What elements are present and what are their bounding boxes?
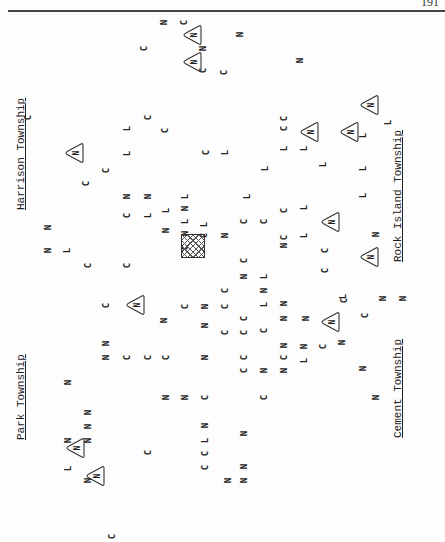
map-marker-l: L [181, 217, 190, 226]
triangle-icon: N [85, 465, 107, 487]
triangle-icon: N [320, 211, 342, 233]
map-marker-c: C [144, 448, 153, 457]
map-marker-c: C [321, 266, 330, 275]
triangle-icon: N [125, 294, 147, 316]
map-marker-l: L [243, 192, 252, 201]
map-marker-c: C [102, 166, 111, 175]
map-marker-n: N [240, 429, 249, 438]
map-marker-l: L [300, 144, 309, 153]
map-marker-c: C [240, 353, 249, 362]
map-marker-n: N [84, 422, 93, 431]
document-page: 191 Harrison Township Rock Island Townsh… [0, 0, 445, 542]
map-marker-n: N [280, 314, 289, 323]
map-marker-l: L [300, 231, 309, 240]
map-marker-l: L [221, 148, 230, 157]
map-marker-l: L [123, 124, 132, 133]
label-park-township: Park Township [15, 354, 27, 440]
map-marker-n: N [296, 56, 305, 65]
map-marker-n: N [280, 341, 289, 350]
map-marker-c: C [240, 314, 249, 323]
map-marker-c: C [201, 463, 210, 472]
map-marker-c: C [123, 211, 132, 220]
map-marker-n: N [359, 364, 368, 373]
map-marker-l: L [300, 356, 309, 365]
map-marker-n: N [44, 223, 53, 232]
map-marker-n: N [240, 272, 249, 281]
map-marker-n: N [102, 353, 111, 362]
map-marker-n: N [260, 366, 269, 375]
map-marker-n: N [162, 226, 171, 235]
map-marker-n: N [280, 241, 289, 250]
map-marker-c: C [162, 353, 171, 362]
map-marker-n: N [224, 476, 233, 485]
map-marker-l: L [280, 144, 289, 153]
map-marker-c: C [84, 261, 93, 270]
triangle-icon: N [359, 94, 381, 116]
map-marker-n: N [300, 342, 309, 351]
map-marker-c: C [240, 256, 249, 265]
map-marker-l: L [384, 118, 393, 127]
map-marker-l: L [359, 191, 368, 200]
map-marker-c: C [220, 68, 229, 77]
map-marker-c: C [361, 311, 370, 320]
map-marker-l: L [261, 164, 270, 173]
triangle-icon: N [65, 437, 87, 459]
map-marker-n: N [201, 421, 210, 430]
map-marker-n: N [160, 316, 169, 325]
map-marker-c: C [221, 302, 230, 311]
map-marker-c: C [280, 206, 289, 215]
map-marker-n: N [144, 192, 153, 201]
map-marker-n: N [399, 294, 408, 303]
map-marker-c: C [140, 44, 149, 53]
map-marker-c: C [123, 353, 132, 362]
map-marker-c: C [319, 342, 328, 351]
triangle-icon: N [339, 121, 361, 143]
map-marker-c: C [221, 286, 230, 295]
map-marker-l: L [260, 272, 269, 281]
map-marker-n: N [160, 18, 169, 27]
map-marker-n: N [236, 30, 245, 39]
map-marker-c: C [161, 126, 170, 135]
map-marker-c: C [321, 246, 330, 255]
label-cement-township: Cement Township [392, 339, 404, 438]
map-marker-n: N [123, 192, 132, 201]
map-marker-n: N [64, 378, 73, 387]
map-marker-l: L [201, 436, 210, 445]
map-marker-n: N [162, 393, 171, 402]
map-marker-c: C [102, 301, 111, 310]
map-marker-n: N [181, 393, 190, 402]
triangle-icon: N [64, 142, 86, 164]
map-marker-c: C [280, 353, 289, 362]
map-marker-c: C [240, 217, 249, 226]
map-marker-l: L [359, 164, 368, 173]
map-marker-n: N [372, 230, 381, 239]
map-marker-n: N [302, 314, 311, 323]
map-marker-n: N [201, 353, 210, 362]
map-marker-c: C [260, 393, 269, 402]
map-marker-l: L [63, 246, 72, 255]
map-marker-n: N [44, 246, 53, 255]
map-marker-c: C [240, 366, 249, 375]
triangle-icon: N [359, 246, 381, 268]
map-marker-l: L [144, 211, 153, 220]
header-rule [8, 10, 445, 12]
hatched-square-icon [181, 234, 205, 258]
map-marker-c: C [108, 532, 117, 541]
map-marker-c: C [123, 261, 132, 270]
map-marker-l: L [200, 220, 209, 229]
triangle-icon: N [182, 24, 204, 46]
map-marker-n: N [240, 462, 249, 471]
map-marker-c: C [181, 302, 190, 311]
map-marker-l: L [162, 206, 171, 215]
map-marker-c: C [240, 328, 249, 337]
map-marker-l: L [123, 149, 132, 158]
map-marker-c: C [221, 328, 230, 337]
triangle-icon: N [320, 311, 342, 333]
map-marker-c: C [201, 393, 210, 402]
map-marker-l: L [260, 300, 269, 309]
map-marker-n: N [221, 231, 230, 240]
map-marker-n: N [260, 286, 269, 295]
triangle-icon: N [299, 121, 321, 143]
map-marker-c: C [260, 217, 269, 226]
triangle-icon: N [182, 51, 204, 73]
